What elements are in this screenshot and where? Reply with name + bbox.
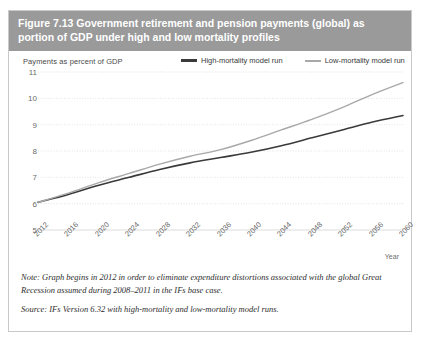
figure-title: Figure 7.13 Government retirement and pe… bbox=[9, 11, 411, 51]
y-tick-label: 11 bbox=[29, 68, 37, 77]
figure-container: Figure 7.13 Government retirement and pe… bbox=[8, 10, 412, 332]
chart-svg bbox=[38, 72, 403, 230]
x-axis-title: Year bbox=[385, 253, 399, 260]
y-axis-tick-labels: 567891011 bbox=[23, 66, 37, 236]
series-line-low-mortality bbox=[38, 83, 403, 203]
series-line-high-mortality bbox=[38, 115, 403, 202]
chart-area: Payments as percent of GDP High-mortalit… bbox=[9, 51, 411, 265]
figure-notes: Note: Graph begins in 2012 in order to e… bbox=[9, 265, 411, 316]
chart-legend: High-mortality model run Low-mortality m… bbox=[181, 56, 405, 65]
legend-swatch-low-mortality bbox=[305, 60, 321, 62]
legend-item-high-mortality: High-mortality model run bbox=[181, 56, 283, 65]
legend-item-low-mortality: Low-mortality model run bbox=[305, 56, 405, 65]
series-lines bbox=[38, 83, 403, 203]
y-tick-label: 7 bbox=[33, 173, 37, 182]
plot-canvas bbox=[38, 72, 403, 230]
y-tick-label: 10 bbox=[28, 94, 37, 103]
x-axis-tick-labels: 2012201620202024202820322036204020442048… bbox=[38, 232, 403, 262]
y-tick-label: 9 bbox=[33, 120, 37, 129]
y-axis-title: Payments as percent of GDP bbox=[23, 57, 123, 66]
legend-label-high-mortality: High-mortality model run bbox=[201, 56, 283, 65]
y-tick-label: 6 bbox=[33, 199, 37, 208]
legend-label-low-mortality: Low-mortality model run bbox=[325, 56, 405, 65]
figure-source: Source: IFs Version 6.32 with high-morta… bbox=[21, 303, 399, 316]
y-tick-label: 8 bbox=[33, 147, 37, 156]
figure-note: Note: Graph begins in 2012 in order to e… bbox=[21, 271, 399, 296]
gridlines bbox=[38, 72, 403, 230]
legend-swatch-high-mortality bbox=[181, 59, 197, 62]
